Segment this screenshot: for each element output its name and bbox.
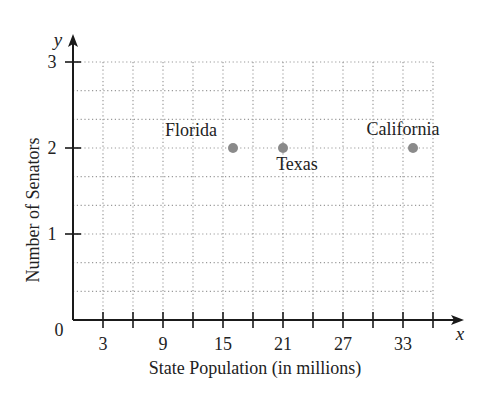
x-tick-label: 9 — [159, 334, 168, 354]
x-tick-label: 3 — [99, 334, 108, 354]
point-label-texas: Texas — [276, 154, 318, 174]
data-points: FloridaTexasCalifornia — [165, 119, 439, 174]
y-tick-label: 1 — [48, 224, 57, 244]
point-label-california: California — [367, 119, 440, 139]
x-tick-label: 27 — [334, 334, 352, 354]
x-tick-label: 21 — [274, 334, 292, 354]
ticks: 3915212733123 — [48, 52, 434, 354]
data-point-florida — [228, 143, 238, 153]
x-axis-label: State Population (in millions) — [149, 358, 362, 379]
origin-label: 0 — [55, 320, 64, 340]
y-tick-label: 2 — [48, 138, 57, 158]
scatter-chart: 3915212733123 FloridaTexasCalifornia y x… — [0, 0, 488, 400]
grid — [73, 62, 433, 320]
y-axis-symbol: y — [52, 29, 63, 50]
data-point-california — [408, 143, 418, 153]
x-tick-label: 33 — [394, 334, 412, 354]
y-axis-label: Number of Senators — [23, 138, 43, 283]
axes — [68, 34, 464, 325]
data-point-texas — [278, 143, 288, 153]
y-tick-label: 3 — [48, 52, 57, 72]
x-tick-label: 15 — [214, 334, 232, 354]
point-label-florida: Florida — [165, 120, 217, 140]
x-axis-symbol: x — [455, 323, 465, 344]
